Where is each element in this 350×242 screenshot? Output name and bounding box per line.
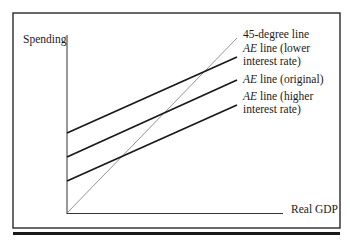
label-45-degree: 45-degree line	[243, 28, 309, 41]
label-ae-original: AE line (original)	[243, 73, 324, 86]
label-ae-lower-interest: AE line (lower interest rate)	[243, 42, 310, 67]
ae-line-higher-interest	[67, 105, 237, 181]
label-ae-higher-interest: AE line (higher interest rate)	[243, 90, 313, 115]
45-degree-line	[67, 38, 237, 213]
x-axis-label: Real GDP	[291, 203, 338, 216]
ae-line-lower-interest	[67, 57, 237, 133]
y-axis-label: Spending	[23, 33, 66, 46]
bottom-rule	[13, 232, 340, 235]
ae-line-original	[67, 80, 237, 157]
